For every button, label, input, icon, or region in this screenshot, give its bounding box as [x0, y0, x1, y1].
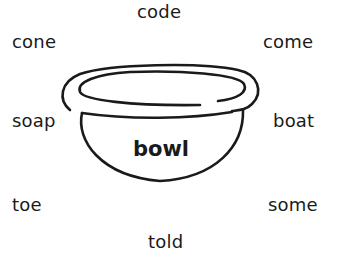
word-code: code [137, 3, 181, 21]
word-cone: cone [12, 33, 56, 51]
word-some: some [268, 196, 318, 214]
word-toe: toe [12, 196, 42, 214]
word-come: come [263, 33, 313, 51]
word-told: told [148, 233, 183, 251]
center-word-bowl: bowl [133, 139, 189, 160]
word-soap: soap [12, 112, 56, 130]
word-web-diagram: bowl code cone come soap boat toe some t… [0, 0, 340, 260]
word-boat: boat [273, 112, 314, 130]
